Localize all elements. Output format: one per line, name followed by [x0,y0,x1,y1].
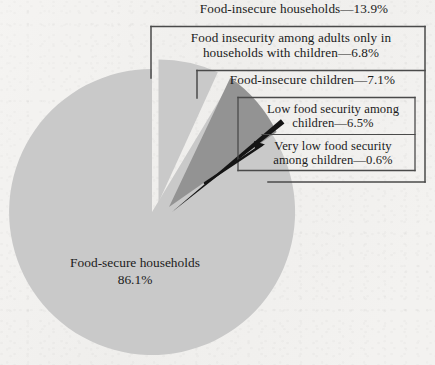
callout-food-insecure-households: Food-insecure households—13.9% [160,2,428,17]
pie-label-food-secure-name: Food-secure households [20,254,250,271]
callout-food-insecurity-adults-only: Food insecurity among adults only in hou… [160,31,422,61]
pie-label-food-secure-households: Food-secure households 86.1% [20,254,250,288]
callout-food-insecure-children: Food-insecure children—7.1% [205,73,420,88]
pie-label-food-secure-value: 86.1% [20,271,250,288]
callout-low-food-security-line1: Low food security among [243,102,423,116]
callout-very-low-line1: Very low food security [243,139,423,153]
callout-low-food-security-among-children: Low food security among children—6.5% [243,102,423,130]
callout-adults-only-line1: Food insecurity among adults only in [160,31,422,46]
callout-very-low-food-security-among-children: Very low food security among children—0.… [243,139,423,167]
callout-very-low-line2: among children—0.6% [243,153,423,167]
pie-chart-figure: Food-insecure households—13.9% Food inse… [0,0,435,365]
callout-low-food-security-line2: children—6.5% [243,116,423,130]
callout-adults-only-line2: households with children—6.8% [160,46,422,61]
